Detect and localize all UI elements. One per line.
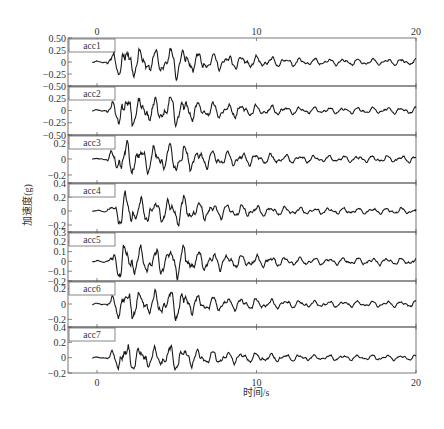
y-tick-label: 0 (61, 299, 66, 310)
panel-acc4: 0.40.20−0.2acc4 (48, 178, 416, 233)
legend-acc6: acc6 (69, 282, 115, 295)
y-tick-label: 0 (61, 206, 66, 217)
svg-text:acc3: acc3 (83, 138, 101, 148)
panel-acc1: 0.500.250−0.25−0.50acc1 (43, 33, 416, 92)
x-tick-label-top: 0 (95, 26, 100, 37)
svg-text:acc5: acc5 (83, 235, 101, 245)
x-axis-title: 时间/s (243, 386, 270, 398)
y-tick-label: 0 (61, 154, 66, 165)
x-tick-label-top: 10 (252, 26, 262, 37)
svg-text:acc1: acc1 (83, 41, 101, 51)
panels: 0.500.250−0.25−0.50acc10.250−0.25−0.50ac… (43, 33, 416, 379)
svg-text:acc4: acc4 (83, 186, 101, 196)
panel-acc3: 0.20−0.2acc3 (48, 135, 416, 183)
svg-text:acc2: acc2 (83, 89, 101, 99)
y-tick-label: 0 (61, 352, 66, 363)
y-tick-label: 0 (61, 57, 66, 68)
acceleration-time-history-chart: 0.500.250−0.25−0.50acc10.250−0.25−0.50ac… (0, 0, 444, 429)
panel-acc7: 0.40.20−0.2acc7 (48, 322, 416, 379)
svg-text:acc7: acc7 (83, 330, 101, 340)
trace-acc4 (92, 191, 416, 227)
y-tick-label: −0.2 (48, 368, 66, 379)
legend-acc4: acc4 (69, 184, 115, 197)
trace-acc5 (92, 245, 416, 281)
panel-acc6: 0.20−0.2acc6 (48, 281, 416, 327)
x-axis-top: 01020 (95, 26, 422, 37)
legend-acc7: acc7 (69, 328, 115, 341)
y-tick-label: 0.25 (49, 93, 67, 104)
legend-acc1: acc1 (69, 39, 115, 52)
y-tick-label: −0.25 (43, 69, 66, 80)
y-tick-label: 0.2 (54, 138, 67, 149)
y-tick-label: 0.25 (49, 45, 67, 56)
y-tick-label: 0.2 (54, 283, 67, 294)
y-tick-label: 0.2 (54, 337, 67, 348)
y-tick-label: 0.4 (54, 178, 67, 189)
y-tick-label: 0 (61, 105, 66, 116)
svg-text:acc6: acc6 (83, 284, 101, 294)
x-tick-label-bottom: 0 (95, 377, 100, 388)
legend-acc2: acc2 (69, 87, 115, 100)
y-tick-label: 0.4 (54, 322, 67, 333)
y-tick-label: 0.2 (54, 192, 67, 203)
y-axis-title: 加速度(g) (21, 184, 34, 226)
legend-acc3: acc3 (69, 136, 115, 149)
x-tick-label-bottom: 20 (411, 377, 421, 388)
legend-acc5: acc5 (69, 233, 115, 246)
x-tick-label-top: 20 (411, 26, 421, 37)
trace-acc1 (92, 48, 416, 80)
trace-acc6 (92, 290, 416, 321)
y-tick-label: −0.50 (43, 81, 66, 92)
panel-acc2: 0.250−0.25−0.50acc2 (43, 86, 416, 141)
trace-acc3 (92, 140, 416, 174)
panel-acc5: 0.30.20.10−0.1−0.2acc5 (48, 227, 416, 287)
trace-acc2 (92, 97, 416, 126)
y-tick-label: −0.25 (43, 117, 66, 128)
trace-acc7 (92, 344, 416, 370)
y-tick-label: 0.50 (49, 33, 67, 44)
